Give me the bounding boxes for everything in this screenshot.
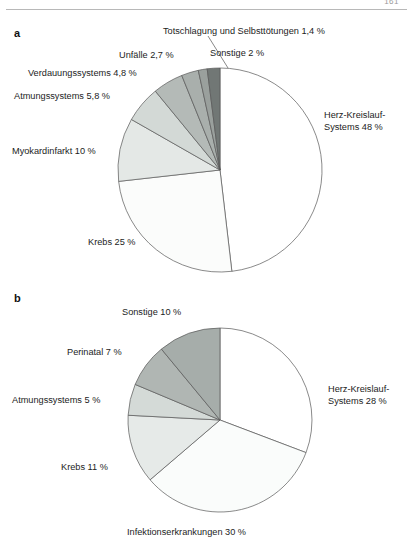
label-b-krebs: Krebs 11 % (61, 462, 108, 474)
label-b-perinatal: Perinatal 7 % (67, 347, 122, 359)
label-b-herz-line1: Herz-Kreislauf- (328, 384, 389, 394)
label-a-atmungssystems: Atmungssystems 5,8 % (14, 91, 110, 103)
pie-chart-b (128, 328, 312, 512)
label-a-krebs: Krebs 25 % (88, 237, 136, 249)
label-b-sonstige: Sonstige 10 % (122, 307, 181, 319)
figure-page: 161 a b Herz-Kreislauf- Systems 48 % Kre… (0, 0, 407, 547)
label-b-atmungssystems: Atmungssystems 5 % (12, 395, 100, 407)
label-a-herz-line2: Systems 48 % (324, 122, 383, 132)
label-b-infektionserkrankungen: Infektionserkrankungen 30 % (127, 527, 246, 539)
pie-chart-a (118, 68, 322, 272)
pie-slice (119, 170, 232, 272)
label-a-myokardinfarkt: Myokardinfarkt 10 % (12, 146, 96, 158)
label-a-herz-kreislauf: Herz-Kreislauf- Systems 48 % (324, 110, 406, 133)
label-a-herz-line1: Herz-Kreislauf- (324, 110, 385, 120)
label-b-herz-kreislauf: Herz-Kreislauf- Systems 28 % (328, 384, 407, 407)
label-a-verdauungssystems: Verdauungssystems 4,8 % (28, 68, 137, 80)
label-a-sonstige: Sonstige 2 % (210, 48, 264, 60)
label-b-herz-line2: Systems 28 % (328, 396, 387, 406)
label-a-totschlagung: Totschlagung und Selbsttötungen 1,4 % (163, 26, 325, 38)
pie-slice (220, 68, 322, 271)
label-a-unfaelle: Unfälle 2,7 % (119, 50, 174, 62)
